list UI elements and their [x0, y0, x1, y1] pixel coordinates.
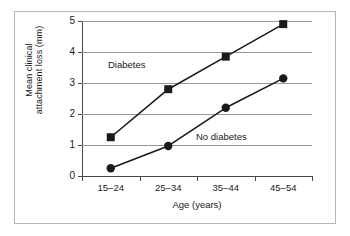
- y-axis-title: Mean clinical attachment loss (mm): [16, 0, 52, 140]
- plot-area: 012345 15–2425–3435–4445–54 Diabetes No …: [82, 21, 312, 176]
- data-point-0-2: [222, 53, 230, 61]
- data-point-1-3: [279, 74, 287, 82]
- series-line: [111, 78, 284, 168]
- data-point-0-1: [164, 85, 172, 93]
- y-tick-label-0: 0: [69, 171, 75, 181]
- x-tick-mark-3: [255, 176, 256, 181]
- data-point-0-0: [107, 133, 115, 141]
- data-series-layer: [82, 21, 312, 176]
- series-diabetes: [107, 20, 288, 141]
- x-tick-mark-2: [197, 176, 198, 181]
- y-tick-label-2: 2: [69, 109, 75, 119]
- y-tick-label-3: 3: [69, 78, 75, 88]
- y-tick-label-5: 5: [69, 16, 75, 26]
- y-axis-title-line-1: Mean clinical: [24, 43, 34, 96]
- y-tick-label-4: 4: [69, 47, 75, 57]
- data-point-1-0: [107, 164, 115, 172]
- x-tick-label-2: 35–44: [213, 182, 239, 193]
- chart-figure: Mean clinical attachment loss (mm) 01234…: [0, 0, 350, 236]
- x-tick-label-0: 15–24: [98, 182, 124, 193]
- x-tick-mark-1: [140, 176, 141, 181]
- series-label-diabetes: Diabetes: [108, 59, 146, 70]
- y-axis-title-line-2: attachment loss (mm): [34, 26, 44, 115]
- x-tick-label-1: 25–34: [155, 182, 181, 193]
- data-point-1-2: [222, 104, 230, 112]
- x-tick-mark-4: [312, 176, 313, 181]
- series-no-diabetes: [107, 74, 288, 172]
- y-tick-label-1: 1: [69, 140, 75, 150]
- x-axis-title: Age (years): [82, 199, 312, 210]
- x-tick-mark-0: [82, 176, 83, 181]
- series-line: [111, 24, 284, 137]
- series-label-no-diabetes: No diabetes: [196, 131, 247, 142]
- x-tick-label-3: 45–54: [270, 182, 296, 193]
- data-point-0-3: [279, 20, 287, 28]
- data-point-1-1: [164, 142, 172, 150]
